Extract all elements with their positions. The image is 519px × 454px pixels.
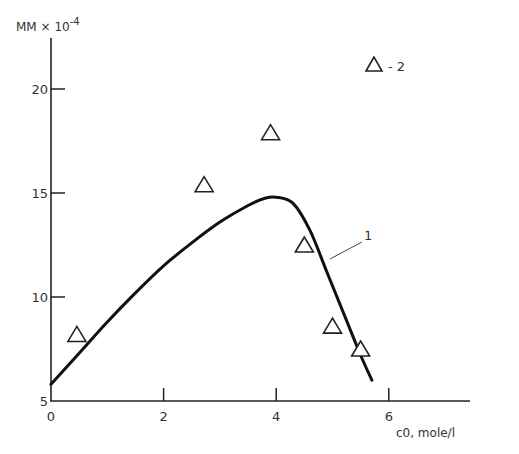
triangle-marker-icon <box>262 125 280 140</box>
x-tick-label: 2 <box>159 409 167 424</box>
y-tick-label: 20 <box>31 82 48 97</box>
x-tick-label: 0 <box>47 409 55 424</box>
series-1-curve <box>51 197 372 385</box>
x-ticks: 0246 <box>47 388 393 424</box>
y-tick-label: 15 <box>31 186 48 201</box>
axes <box>50 38 470 401</box>
x-tick-label: 6 <box>385 409 393 424</box>
x-tick-label: 4 <box>272 409 280 424</box>
y-axis-title: MM × 10-4 <box>16 16 80 34</box>
legend: - 2 <box>366 57 405 74</box>
chart: 5101520 0246 MM × 10-4 c0, mole/l 1 - 2 <box>0 0 519 454</box>
y-tick-label: 5 <box>40 394 48 409</box>
x-axis-title: c0, mole/l <box>396 426 455 440</box>
series-2-markers <box>68 125 370 356</box>
curve-1-label: 1 <box>364 228 372 243</box>
triangle-marker-icon <box>68 326 86 341</box>
legend-triangle-icon <box>366 57 382 71</box>
y-axis-title-exponent: -4 <box>70 16 80 27</box>
y-tick-label: 10 <box>31 290 48 305</box>
y-ticks: 5101520 <box>31 82 65 409</box>
curve-1-leader-line <box>330 242 362 259</box>
triangle-marker-icon <box>324 318 342 333</box>
triangle-marker-icon <box>195 177 213 192</box>
triangle-marker-icon <box>295 237 313 252</box>
legend-entry-2: - 2 <box>388 59 405 74</box>
